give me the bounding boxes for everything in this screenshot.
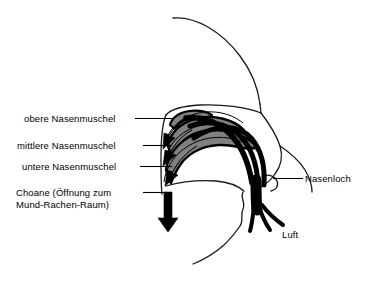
airflow-prong-1 [250,206,254,231]
nose-bridge [260,104,261,113]
label-nasenloch: Nasenloch [305,173,351,185]
label-luft: Luft [282,229,298,241]
anatomy-figure: obere Nasenmuschel mittlere Nasenmuschel… [0,0,372,293]
label-mittlere-nasenmuschel: mittlere Nasenmuschel [17,140,116,152]
label-untere-nasenmuschel: untere Nasenmuschel [22,161,116,173]
choane-arrow-group [158,192,178,232]
label-choane: Choane (Öffnung zum Mund-Rachen-Raum) [16,187,111,210]
palate-throat-line [193,192,244,264]
label-choane-line1: Choane (Öffnung zum [16,187,111,198]
choane-arrow [158,192,178,232]
airflow-trunk [256,180,257,210]
cheek-contour [280,146,312,192]
nasal-floor [166,181,244,191]
label-choane-line2: Mund-Rachen-Raum) [16,199,109,210]
label-obere-nasenmuschel: obere Nasenmuschel [24,113,116,125]
forehead-curve [173,18,260,104]
